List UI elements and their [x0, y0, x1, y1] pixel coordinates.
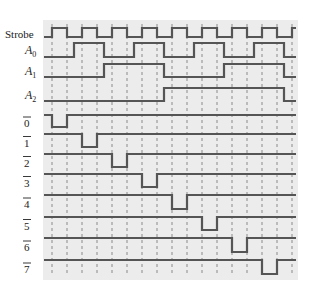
signal-labels: StrobeA0A1A201234567	[5, 28, 36, 276]
label-out1: 1	[24, 137, 30, 149]
label-strobe: Strobe	[5, 28, 34, 40]
label-a2: A2	[24, 88, 36, 104]
label-out6: 6	[24, 241, 30, 253]
label-out0: 0	[24, 117, 30, 129]
diagram-panel	[43, 20, 298, 280]
label-a1: A1	[24, 64, 36, 80]
label-out5: 5	[24, 220, 30, 232]
label-a0: A0	[24, 43, 36, 59]
label-out7: 7	[24, 263, 30, 275]
label-out4: 4	[24, 198, 30, 210]
label-out2: 2	[24, 157, 30, 169]
label-out3: 3	[24, 177, 30, 189]
timing-diagram: StrobeA0A1A201234567	[0, 0, 314, 290]
